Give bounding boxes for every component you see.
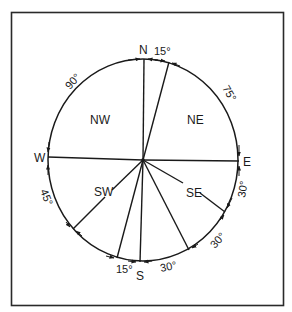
compass-diagram: N E S W NW NE SW SE 15° 75° 30° 30° 30° … — [0, 0, 292, 312]
angle-se2-s: 30° — [159, 259, 178, 274]
ray-west — [48, 157, 143, 160]
angle-ne-e: 75° — [220, 83, 239, 103]
ray-east — [143, 160, 239, 161]
label-se: SE — [186, 186, 202, 200]
angle-w-n: 90° — [63, 71, 83, 91]
ray-sw2-outer — [73, 197, 105, 229]
label-west: W — [34, 151, 46, 165]
ray-ne — [143, 62, 169, 160]
ray-se1-outer — [200, 193, 225, 212]
arrow-icon — [227, 198, 232, 208]
ray-south — [140, 160, 143, 262]
label-north: N — [139, 43, 148, 57]
label-nw: NW — [90, 113, 111, 127]
center-point — [141, 158, 145, 162]
angle-n-ne: 15° — [154, 45, 171, 57]
angle-s-sw1: 15° — [116, 263, 133, 275]
ray-sw1 — [117, 160, 143, 258]
angle-se1-se2: 30° — [208, 230, 228, 250]
label-east: E — [243, 155, 251, 169]
ray-north — [143, 59, 144, 160]
angle-e-se1: 30° — [235, 180, 250, 198]
label-ne: NE — [187, 113, 204, 127]
label-sw: SW — [94, 185, 114, 199]
arrow-icon — [155, 60, 165, 61]
label-south: S — [136, 269, 144, 283]
